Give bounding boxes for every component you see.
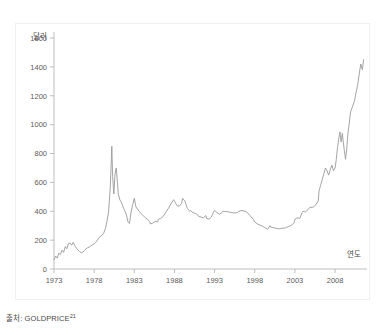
x-tick-label: 1988 [166, 276, 183, 285]
y-tick-label: 200 [34, 236, 47, 245]
x-axis: 19731978198319881993199820032008 [46, 269, 367, 285]
y-axis-title: 달러 [33, 32, 47, 41]
x-tick-label: 1993 [206, 276, 223, 285]
series-path [54, 60, 364, 260]
source-footnote-marker: 21 [70, 313, 76, 319]
x-tick-label: 1998 [246, 276, 263, 285]
x-axis-title: 연도 [347, 250, 361, 259]
y-tick-label: 1400 [30, 63, 47, 72]
gold-price-line-chart: 02004006008001000120014001600 1973197819… [16, 24, 369, 299]
gold-price-figure: 02004006008001000120014001600 1973197819… [0, 0, 392, 335]
x-tick-label: 1983 [126, 276, 143, 285]
y-tick-label: 800 [34, 149, 47, 158]
x-tick-label: 2003 [287, 276, 304, 285]
x-tick-label: 1973 [46, 276, 63, 285]
y-axis: 02004006008001000120014001600 [30, 32, 54, 274]
x-tick-label: 1978 [86, 276, 103, 285]
y-tick-label: 600 [34, 178, 47, 187]
data-series-line [54, 60, 364, 260]
y-tick-label: 1200 [30, 92, 47, 101]
source-caption-text: 출처: GOLDPRICE [6, 314, 70, 323]
x-tick-label: 2008 [327, 276, 344, 285]
y-tick-label: 0 [43, 265, 47, 274]
chart-frame: 02004006008001000120014001600 1973197819… [15, 23, 370, 300]
source-caption: 출처: GOLDPRICE21 [6, 312, 76, 323]
y-tick-label: 400 [34, 207, 47, 216]
y-tick-label: 1000 [30, 120, 47, 129]
